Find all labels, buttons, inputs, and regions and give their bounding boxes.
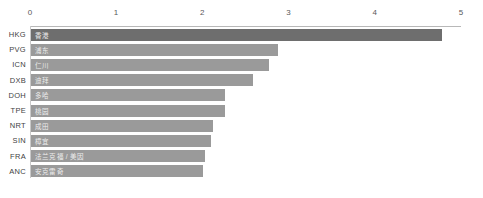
bar-sin[interactable]: 樟宜 [31, 135, 211, 147]
bar-label-hkg: 香港 [35, 29, 49, 41]
x-tick-5: 5 [459, 8, 464, 18]
bar-label-doh: 多哈 [35, 89, 49, 101]
bar-label-sin: 樟宜 [35, 135, 49, 147]
bar-row: SIN樟宜 [0, 133, 483, 148]
x-tick-2: 2 [200, 8, 205, 18]
bar-fra[interactable]: 法兰克福 / 美因 [31, 150, 205, 162]
bar-label-nrt: 成田 [35, 120, 49, 132]
bar-hkg[interactable]: 香港 [31, 29, 442, 41]
category-label-hkg: HKG [0, 27, 26, 42]
category-label-tpe: TPE [0, 103, 26, 118]
bar-tpe[interactable]: 桃园 [31, 105, 225, 117]
category-label-anc: ANC [0, 164, 26, 179]
bar-row: PVG浦东 [0, 42, 483, 57]
bar-label-tpe: 桃园 [35, 105, 49, 117]
bar-nrt[interactable]: 成田 [31, 120, 213, 132]
bar-dxb[interactable]: 迪拜 [31, 74, 253, 86]
x-axis-ticks: 0 1 2 3 4 5 [30, 0, 461, 26]
x-tick-0: 0 [28, 8, 33, 18]
bar-pvg[interactable]: 浦东 [31, 44, 278, 56]
category-label-fra: FRA [0, 149, 26, 164]
bar-label-icn: 仁川 [35, 59, 49, 71]
bar-row: DXB迪拜 [0, 73, 483, 88]
x-tick-1: 1 [114, 8, 119, 18]
category-label-nrt: NRT [0, 118, 26, 133]
bar-chart: 0 1 2 3 4 5 HKG香港PVG浦东ICN仁川DXB迪拜DOH多哈TPE… [0, 0, 483, 198]
bar-row: ICN仁川 [0, 57, 483, 72]
bar-label-dxb: 迪拜 [35, 74, 49, 86]
bar-label-anc: 安克雷奇 [35, 165, 64, 177]
bar-label-fra: 法兰克福 / 美因 [35, 150, 84, 162]
bar-row: NRT成田 [0, 118, 483, 133]
category-label-sin: SIN [0, 133, 26, 148]
bar-label-pvg: 浦东 [35, 44, 49, 56]
bar-row: ANC安克雷奇 [0, 164, 483, 179]
bar-row: TPE桃园 [0, 103, 483, 118]
category-label-dxb: DXB [0, 73, 26, 88]
bar-icn[interactable]: 仁川 [31, 59, 269, 71]
bar-row: DOH多哈 [0, 88, 483, 103]
plot-area: HKG香港PVG浦东ICN仁川DXB迪拜DOH多哈TPE桃园NRT成田SIN樟宜… [0, 27, 483, 179]
x-tick-4: 4 [372, 8, 377, 18]
x-tick-3: 3 [286, 8, 291, 18]
category-label-pvg: PVG [0, 42, 26, 57]
category-label-icn: ICN [0, 57, 26, 72]
bar-row: HKG香港 [0, 27, 483, 42]
bar-row: FRA法兰克福 / 美因 [0, 149, 483, 164]
bar-doh[interactable]: 多哈 [31, 89, 225, 101]
bar-anc[interactable]: 安克雷奇 [31, 165, 203, 177]
category-label-doh: DOH [0, 88, 26, 103]
